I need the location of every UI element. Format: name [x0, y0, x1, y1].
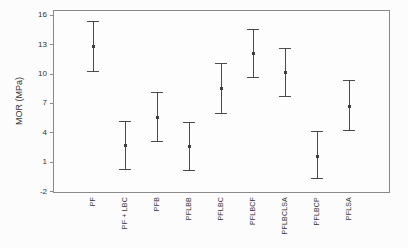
mean-marker: [220, 87, 223, 90]
error-bar: [279, 48, 291, 97]
y-tick-label: 1: [0, 157, 47, 166]
error-bar: [311, 131, 323, 179]
y-tick-mark: [50, 103, 53, 104]
error-bar-cap-top: [87, 21, 99, 22]
y-tick-label: -2: [0, 187, 47, 196]
error-bar: [183, 122, 195, 172]
x-category-label: PF: [89, 197, 97, 206]
mean-marker: [252, 52, 255, 55]
y-tick-mark: [50, 191, 53, 192]
mean-marker: [188, 145, 191, 148]
error-bar-cap-bottom: [183, 170, 195, 171]
error-bar-cap-top: [247, 29, 259, 30]
y-tick-label: 7: [0, 98, 47, 107]
error-bar-cap-bottom: [247, 77, 259, 78]
x-category-label: PFLBC: [217, 197, 225, 221]
error-bar: [87, 21, 99, 72]
y-tick-mark: [50, 162, 53, 163]
y-tick-label: 4: [0, 128, 47, 137]
error-bar-cap-bottom: [215, 113, 227, 114]
y-tick-mark: [50, 74, 53, 75]
error-bar-cap-bottom: [343, 130, 355, 131]
error-bar-cap-top: [183, 122, 195, 123]
x-category-label: PFB: [153, 197, 161, 211]
error-bar-cap-bottom: [279, 96, 291, 97]
x-category-label: PFLBCP: [313, 197, 321, 225]
mean-marker: [316, 155, 319, 158]
error-bar-cap-top: [215, 63, 227, 64]
error-bar-cap-top: [311, 131, 323, 132]
x-category-label: PFLBCF: [249, 197, 257, 225]
error-bar-cap-bottom: [151, 141, 163, 142]
y-tick-mark: [50, 15, 53, 16]
error-bar-cap-bottom: [311, 178, 323, 179]
error-bar-cap-top: [119, 121, 131, 122]
error-bar-cap-top: [151, 92, 163, 93]
error-bar: [215, 63, 227, 114]
errorbar-chart: MOR (MPa) 161310741-2PFPF + LBCPFBPFLBBP…: [0, 0, 408, 248]
mean-marker: [156, 116, 159, 119]
y-tick-label: 16: [0, 10, 47, 19]
y-tick-mark: [50, 132, 53, 133]
mean-marker: [124, 144, 127, 147]
error-bar: [151, 92, 163, 142]
mean-marker: [348, 105, 351, 108]
error-bar-cap-bottom: [87, 71, 99, 72]
mean-marker: [92, 45, 95, 48]
error-bar-cap-bottom: [119, 169, 131, 170]
x-category-label: PFLBCLSA: [281, 197, 289, 234]
y-tick-label: 13: [0, 40, 47, 49]
y-tick-mark: [50, 44, 53, 45]
error-bar: [343, 80, 355, 131]
x-category-label: PFLSA: [345, 197, 353, 220]
x-category-label: PFLBB: [185, 197, 193, 220]
error-bar: [119, 121, 131, 171]
error-bar-cap-top: [343, 80, 355, 81]
error-bar: [247, 29, 259, 79]
y-tick-label: 10: [0, 69, 47, 78]
error-bar-cap-top: [279, 48, 291, 49]
mean-marker: [284, 71, 287, 74]
x-category-label: PF + LBC: [121, 197, 129, 229]
